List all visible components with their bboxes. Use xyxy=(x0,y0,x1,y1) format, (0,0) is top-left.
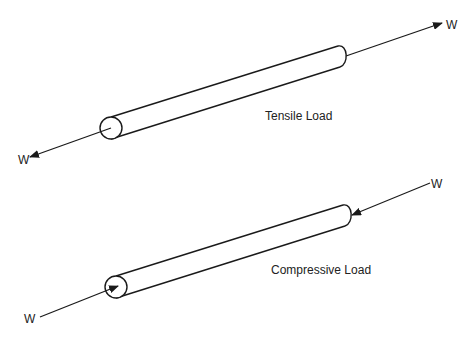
tensile-load-label: Tensile Load xyxy=(265,109,332,123)
load-diagram: W W Tensile Load W W Compressive Load xyxy=(0,0,464,339)
tensile-force-label-left: W xyxy=(18,153,30,167)
compressive-bar xyxy=(105,205,351,298)
compressive-bar-bottom-edge xyxy=(116,226,345,298)
tensile-bar xyxy=(100,46,346,139)
tensile-force-label-right: W xyxy=(446,18,458,32)
tensile-bar-right-end xyxy=(338,46,346,67)
tensile-force-arrow-left xyxy=(30,128,111,157)
compressive-force-arrow-right xyxy=(352,183,430,215)
compressive-force-label-left: W xyxy=(24,312,36,326)
tensile-bar-bottom-edge xyxy=(111,67,340,139)
compressive-force-arrow-left xyxy=(40,286,118,317)
tensile-force-arrow-right xyxy=(346,23,442,56)
compressive-bar-right-end xyxy=(343,205,351,226)
compressive-force-label-right: W xyxy=(431,177,443,191)
tensile-bar-top-edge xyxy=(111,46,338,117)
compressive-load-label: Compressive Load xyxy=(271,263,371,277)
